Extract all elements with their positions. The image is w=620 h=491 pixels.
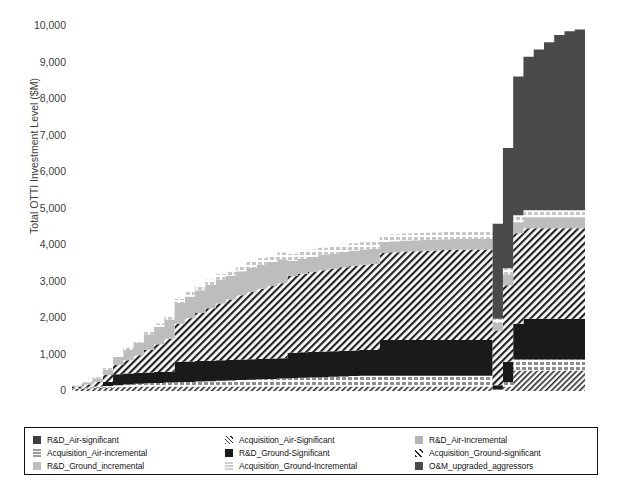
legend-label: Acquisition_Air-Significant [239,435,334,445]
legend-swatch-icon [33,436,41,444]
y-tick-label: 9,000 [8,57,66,68]
legend-swatch-icon [225,462,233,470]
y-tick-label: 6,000 [8,166,66,177]
legend-item[interactable]: Acquisition_Ground-significant [415,448,601,458]
y-tick-label: 7,000 [8,130,66,141]
legend-label: Acquisition_Ground-Incremental [239,461,357,471]
legend-label: R&D_Air-Incremental [429,435,507,445]
legend-item[interactable]: R&D_Air-significant [33,435,225,445]
y-tick-label: 10,000 [8,20,66,31]
legend-swatch-icon [225,449,233,457]
y-tick-label: 0 [8,385,66,396]
legend-item[interactable]: Acquisition_Air-incremental [33,448,225,458]
legend-label: O&M_upgraded_aggressors [429,461,533,471]
y-tick-label: 8,000 [8,93,66,104]
y-axis-tick-labels: 01,0002,0003,0004,0005,0006,0007,0008,00… [0,0,66,491]
chart-figure: Total OTTI Investment Level ($M) 01,0002… [0,0,620,491]
y-tick-label: 4,000 [8,239,66,250]
legend-label: R&D_Air-significant [47,435,119,445]
legend-label: Acquisition_Air-incremental [47,448,147,458]
legend-item[interactable]: Acquisition_Ground-Incremental [225,461,415,471]
legend-item[interactable]: R&D_Ground_incremental [33,461,225,471]
legend-swatch-icon [225,436,233,444]
legend-item[interactable]: O&M_upgraded_aggressors [415,461,601,471]
legend-swatch-icon [415,436,423,444]
y-tick-label: 3,000 [8,276,66,287]
legend-swatch-icon [33,449,41,457]
chart-legend: R&D_Air-significantAcquisition_Air-Signi… [24,427,598,475]
legend-label: Acquisition_Ground-significant [429,448,541,458]
legend-item[interactable]: Acquisition_Air-Significant [225,435,415,445]
y-tick-label: 1,000 [8,349,66,360]
legend-label: R&D_Ground-Significant [239,448,330,458]
legend-swatch-icon [33,462,41,470]
y-tick-label: 2,000 [8,312,66,323]
stacked-area-svg [72,26,585,391]
legend-swatch-icon [415,462,423,470]
legend-item[interactable]: R&D_Air-Incremental [415,435,601,445]
legend-label: R&D_Ground_incremental [47,461,144,471]
legend-item[interactable]: R&D_Ground-Significant [225,448,415,458]
legend-swatch-icon [415,449,423,457]
plot-area [72,26,585,391]
y-tick-label: 5,000 [8,203,66,214]
